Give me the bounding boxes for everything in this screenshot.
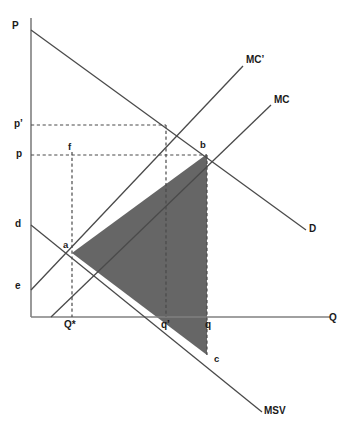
price-label-e: e: [15, 281, 21, 291]
economics-diagram-figure: P Q p’ p d e Q* q’ q a b c f MC’ MC D MS…: [0, 0, 351, 433]
y-axis-label: P: [12, 21, 19, 31]
price-label-p: p: [16, 149, 22, 159]
curve-label-marginal-cost: MC: [274, 95, 290, 105]
point-label-a: a: [63, 240, 68, 250]
curve-label-demand: D: [309, 224, 316, 234]
curve-label-marginal-cost-shifted: MC’: [246, 55, 264, 65]
point-label-c: c: [214, 354, 219, 364]
deadweight-loss-triangle: [72, 154, 207, 355]
quantity-label-q-prime: q’: [161, 320, 170, 330]
x-axis-label: Q: [329, 313, 337, 323]
quantity-label-q: q: [205, 320, 211, 330]
quantity-label-q-star: Q*: [64, 320, 76, 330]
diagram-canvas: [0, 0, 351, 433]
price-label-p-prime: p’: [14, 119, 23, 129]
price-label-d: d: [15, 219, 21, 229]
curve-label-marginal-social-value: MSV: [264, 406, 286, 416]
point-label-b: b: [200, 140, 206, 150]
point-label-f: f: [68, 142, 71, 152]
